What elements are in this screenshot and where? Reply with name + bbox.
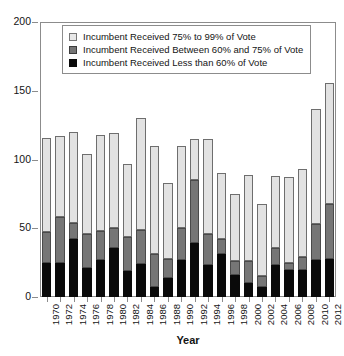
bar-stack (230, 194, 239, 297)
bar-stack (177, 146, 186, 297)
bar-stack (190, 139, 199, 297)
bar-segment (311, 260, 320, 297)
bar-segment (96, 231, 105, 260)
x-axis-tick-label: 1994 (212, 304, 222, 325)
bar-segment (244, 283, 253, 297)
legend-item: Incumbent Received 75% to 99% of Vote (69, 30, 303, 43)
bar-stack (311, 109, 320, 297)
x-axis-tick-mark (235, 297, 236, 302)
bar-segment (325, 204, 334, 259)
bar-segment (109, 133, 118, 228)
bar-stack (82, 154, 91, 297)
y-axis: 050100150200 (0, 0, 40, 356)
legend-item: Incumbent Received Between 60% and 75% o… (69, 43, 303, 56)
bar-stack (109, 133, 118, 297)
bar-segment (217, 239, 226, 254)
light-gray-square-icon (69, 33, 77, 41)
bar-segment (244, 175, 253, 262)
x-axis-tick-mark (154, 297, 155, 302)
y-axis-tick-mark (32, 297, 38, 298)
x-axis-tick-label: 1976 (91, 304, 101, 325)
bar-segment (177, 228, 186, 260)
bar-segment (177, 260, 186, 297)
bar-segment (136, 118, 145, 229)
y-axis-tick-mark (32, 228, 38, 229)
bar-stack (298, 169, 307, 297)
x-axis-tick-label: 1996 (226, 304, 236, 325)
x-axis-tick-label: 1978 (105, 304, 115, 325)
x-axis-tick-label: 2004 (279, 304, 289, 325)
bar-segment (271, 248, 280, 266)
x-axis-tick-label: 2010 (320, 304, 330, 325)
bar-stack (150, 146, 159, 297)
x-axis-tick-label: 2008 (306, 304, 316, 325)
x-axis-tick-mark (329, 297, 330, 302)
x-axis-tick-mark (114, 297, 115, 302)
x-axis-tick-label: 2006 (293, 304, 303, 325)
x-axis-tick-label: 1988 (172, 304, 182, 325)
x-axis-tick-mark (60, 297, 61, 302)
bar-segment (271, 176, 280, 248)
x-axis: 1970197219741976197819801982198419861988… (40, 297, 336, 356)
x-axis-tick-label: 1986 (158, 304, 168, 325)
bar-segment (163, 278, 172, 297)
bar-segment (109, 248, 118, 298)
x-axis-tick-mark (101, 297, 102, 302)
bar-segment (55, 217, 64, 262)
x-axis-tick-mark (127, 297, 128, 302)
y-axis-tick-mark (32, 22, 38, 23)
x-axis-tick-mark (74, 297, 75, 302)
chart-container: 050100150200 197019721974197619781980198… (0, 0, 344, 356)
bar-segment (82, 268, 91, 297)
black-square-icon (69, 59, 77, 67)
bar-segment (163, 183, 172, 259)
bar-segment (150, 254, 159, 287)
bar-segment (150, 287, 159, 297)
y-axis-tick-mark (32, 160, 38, 161)
x-axis-tick-mark (208, 297, 209, 302)
bar-segment (230, 194, 239, 261)
bar-segment (230, 261, 239, 275)
bar-stack (257, 204, 266, 298)
x-axis-tick-mark (87, 297, 88, 302)
bar-segment (203, 265, 212, 297)
x-axis-tick-label: 2000 (253, 304, 263, 325)
y-axis-tick-label: 100 (13, 153, 31, 166)
x-axis-tick-label: 1984 (145, 304, 155, 325)
bar-segment (190, 180, 199, 243)
y-axis-tick-label: 0 (25, 290, 31, 303)
x-axis-tick-mark (168, 297, 169, 302)
x-axis-tick-mark (262, 297, 263, 302)
x-axis-tick-mark (316, 297, 317, 302)
x-axis-tick-label: 1998 (239, 304, 249, 325)
bar-segment (96, 260, 105, 297)
bar-segment (42, 138, 51, 233)
y-axis-tick-mark (32, 91, 38, 92)
x-axis-tick-mark (195, 297, 196, 302)
y-axis-tick-label: 200 (13, 15, 31, 28)
bar-segment (136, 230, 145, 264)
bar-segment (271, 265, 280, 297)
bar-stack (42, 138, 51, 298)
bar-segment (123, 271, 132, 297)
x-axis-tick-label: 1980 (118, 304, 128, 325)
bar-stack (55, 136, 64, 297)
bar-segment (69, 223, 78, 240)
legend-item: Incumbent Received Less than 60% of Vote (69, 56, 303, 69)
bar-segment (325, 83, 334, 204)
bar-segment (82, 154, 91, 234)
x-axis-tick-mark (302, 297, 303, 302)
bar-segment (69, 239, 78, 297)
legend-item-label: Incumbent Received 75% to 99% of Vote (83, 31, 256, 42)
bar-stack (136, 118, 145, 297)
bar-segment (163, 259, 172, 278)
bar-segment (190, 139, 199, 180)
bar-segment (55, 263, 64, 297)
x-axis-tick-label: 2012 (333, 304, 343, 325)
x-axis-tick-label: 1992 (199, 304, 209, 325)
x-axis-tick-mark (47, 297, 48, 302)
bar-segment (55, 136, 64, 217)
bar-stack (69, 132, 78, 297)
bar-segment (203, 234, 212, 266)
y-axis-tick-label: 50 (19, 221, 31, 234)
